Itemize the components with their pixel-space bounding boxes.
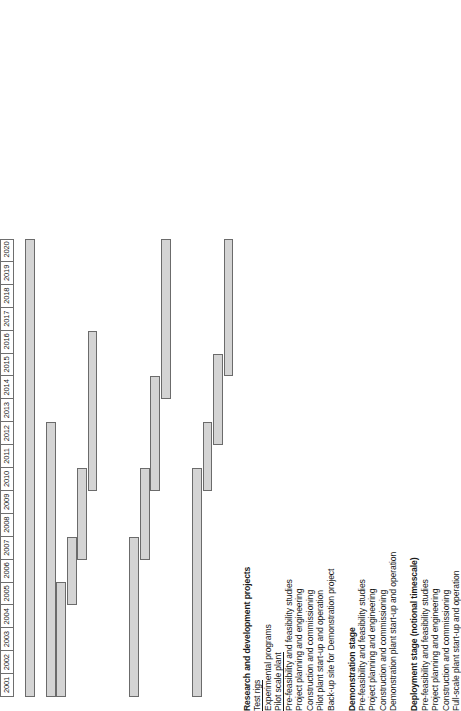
task-label-1-3: Demonstration plant start-up and operati… — [389, 552, 398, 711]
year-tick-2016: 2016 — [1, 330, 13, 353]
gantt-bar-1-2 — [150, 376, 160, 491]
task-label-0-1: Experimental programs — [264, 624, 273, 711]
task-label-1-1: Project planning and engineering — [368, 589, 377, 711]
gantt-bar-2-1 — [203, 422, 213, 491]
gantt-bar-1-3 — [161, 239, 171, 399]
task-label-0-4: Project planning and engineering — [295, 589, 304, 711]
gantt-bar-0-3 — [56, 583, 66, 698]
task-label-underlined-text: Test rigs — [252, 680, 263, 711]
year-tick-2007: 2007 — [1, 536, 13, 559]
gantt-bar-1-1 — [140, 468, 150, 560]
task-label-0-0: Test rigs — [253, 680, 262, 711]
year-tick-2017: 2017 — [1, 307, 13, 330]
task-label-0-3: Pre-feasibility and feasibility studies — [285, 579, 294, 711]
year-tick-2020: 2020 — [1, 238, 13, 261]
year-tick-2018: 2018 — [1, 284, 13, 307]
year-axis: 2001200220032004200520062007200820092010… — [0, 239, 14, 697]
task-label-2-1: Project planning and engineering — [431, 589, 440, 711]
year-tick-2002: 2002 — [1, 650, 13, 673]
gantt-bar-0-4 — [67, 537, 77, 606]
year-tick-2011: 2011 — [1, 444, 13, 467]
task-label-0-7: Back-up site for Demonstration project — [327, 569, 336, 711]
task-label-2-0: Pre-feasibility and feasibility studies — [421, 579, 430, 711]
gantt-bar-0-5 — [77, 468, 87, 560]
gantt-chart-figure: 2001200220032004200520062007200820092010… — [0, 0, 307, 711]
year-tick-2001: 2001 — [1, 673, 13, 696]
year-tick-2004: 2004 — [1, 604, 13, 627]
year-tick-2003: 2003 — [1, 627, 13, 650]
task-label-2-2: Construction and commissioning — [442, 590, 451, 711]
group-heading-2: Deployment stage (notional timescale) — [410, 558, 419, 711]
task-label-1-0: Pre-feasibility and feasibility studies — [358, 579, 367, 711]
group-heading-0: Research and development projects — [243, 567, 252, 711]
year-tick-2013: 2013 — [1, 398, 13, 421]
year-tick-2005: 2005 — [1, 582, 13, 605]
gantt-bar-0-6 — [88, 331, 98, 491]
year-tick-2015: 2015 — [1, 353, 13, 376]
year-tick-2010: 2010 — [1, 467, 13, 490]
task-label-2-3: Full-scale plant start-up and operation — [452, 571, 461, 711]
group-heading-1: Demonstration stage — [348, 627, 357, 711]
year-tick-2006: 2006 — [1, 559, 13, 582]
year-tick-2019: 2019 — [1, 261, 13, 284]
gantt-bar-2-3 — [224, 239, 234, 376]
task-label-0-5: Construction and commissioning — [306, 590, 315, 711]
task-label-0-6: Pilot plant start-up and operation — [316, 590, 325, 711]
task-label-1-2: Construction and commissioning — [379, 590, 388, 711]
gantt-bar-0-2 — [46, 422, 56, 697]
gantt-plot-area — [14, 239, 241, 697]
gantt-bar-0-0 — [25, 239, 35, 697]
gantt-chart-rotated-canvas: 2001200220032004200520062007200820092010… — [0, 0, 307, 711]
year-tick-2008: 2008 — [1, 513, 13, 536]
year-tick-2009: 2009 — [1, 490, 13, 513]
year-tick-2012: 2012 — [1, 421, 13, 444]
task-label-0-2: Pilot scale plant — [274, 653, 283, 711]
gantt-bar-2-0 — [192, 468, 202, 697]
year-tick-2014: 2014 — [1, 375, 13, 398]
gantt-bar-2-2 — [213, 354, 223, 446]
task-label-underlined-text: Pilot scale plant — [273, 653, 284, 711]
gantt-bar-1-0 — [129, 537, 139, 697]
task-label-column: Research and development projectsTest ri… — [241, 0, 307, 711]
